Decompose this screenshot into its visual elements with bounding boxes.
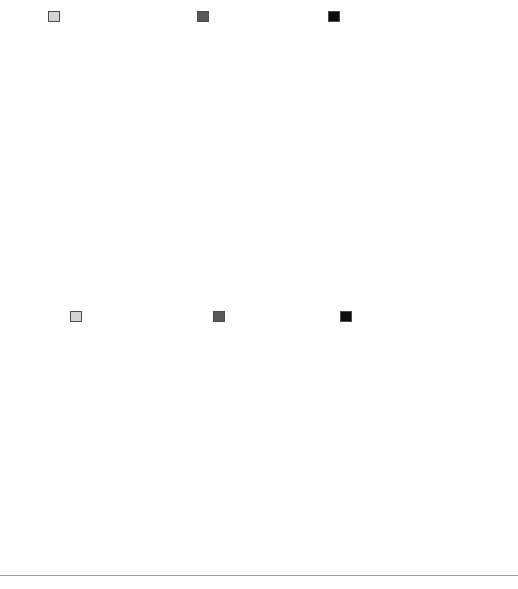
chart-panel-top xyxy=(0,0,518,300)
footer-divider xyxy=(0,575,518,576)
plot-area-bottom xyxy=(0,300,518,575)
chart-panel-bottom xyxy=(0,300,518,575)
plot-area-top xyxy=(0,0,518,300)
